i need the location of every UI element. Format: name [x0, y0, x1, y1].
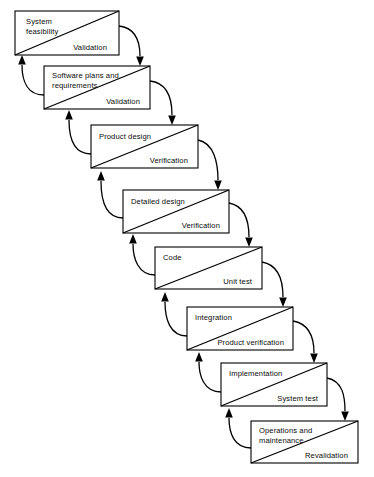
feedback-connector-7-to-6: [195, 352, 221, 392]
stage-verification-label: Product verification: [217, 338, 284, 347]
arrowhead-up-icon: [225, 408, 233, 418]
arrowhead-up-icon: [65, 110, 73, 120]
forward-connector-7-to-8: [327, 378, 349, 421]
forward-connector-3-to-4: [198, 140, 222, 190]
stage-box-6[interactable]: Integration Product verification: [187, 307, 293, 350]
forward-connector-5-to-6: [262, 262, 287, 307]
stage-phase-label-line2: maintenance: [259, 436, 304, 445]
arrowhead-down-icon: [341, 412, 349, 422]
stage-phase-label-line2: feasibility: [26, 27, 58, 36]
arrowhead-down-icon: [245, 238, 253, 248]
feedback-connector-6-to-5: [161, 292, 187, 336]
arrowhead-down-icon: [310, 354, 318, 364]
stage-verification-label: Unit test: [223, 277, 253, 286]
forward-connector-2-to-3: [150, 81, 176, 125]
forward-connector-6-to-7: [293, 321, 318, 363]
stage-box-4[interactable]: Detailed design Verification: [123, 190, 229, 233]
stage-phase-label: Detailed design: [131, 197, 185, 206]
arrowhead-down-icon: [168, 116, 176, 126]
feedback-connector-4-to-3: [97, 171, 123, 218]
feedback-connector-5-to-4: [129, 234, 155, 275]
stage-box-5[interactable]: Code Unit test: [155, 247, 262, 289]
stage-phase-label: Operations and: [259, 426, 312, 435]
stage-box-2[interactable]: Software plans and requirements Validati…: [44, 66, 150, 109]
stage-verification-label: Revalidation: [305, 451, 348, 460]
waterfall-diagram: System feasibility Validation Software p…: [0, 0, 374, 477]
stage-phase-label: Software plans and: [52, 71, 119, 80]
stage-phase-label: Product design: [99, 132, 151, 141]
stage-verification-label: Validation: [73, 43, 107, 52]
arrowhead-up-icon: [97, 171, 105, 181]
stage-box-1[interactable]: System feasibility Validation: [15, 11, 119, 55]
waterfall-diagram-canvas: System feasibility Validation Software p…: [0, 0, 374, 477]
arrowhead-down-icon: [214, 181, 222, 191]
stage-box-7[interactable]: Implementation System test: [221, 363, 327, 406]
arrowhead-down-icon: [279, 298, 287, 308]
stage-box-3[interactable]: Product design Verification: [91, 125, 198, 168]
arrowhead-down-icon: [136, 57, 144, 67]
stage-phase-label: Implementation: [229, 369, 282, 378]
forward-connector-1-to-2: [119, 26, 144, 66]
stage-verification-label: Verification: [150, 156, 188, 165]
stage-phase-label: Code: [163, 253, 182, 262]
stage-verification-label: System test: [277, 394, 319, 403]
feedback-connector-3-to-2: [65, 110, 91, 154]
stage-verification-label: Validation: [106, 97, 140, 106]
feedback-connector-2-to-1: [18, 55, 44, 95]
feedback-connector-8-to-7: [225, 408, 251, 448]
stage-verification-label: Verification: [182, 221, 220, 230]
arrowhead-up-icon: [161, 292, 169, 302]
stage-phase-label: System: [26, 17, 52, 26]
stage-box-8[interactable]: Operations and maintenance Revalidation: [251, 421, 358, 463]
stage-phase-label-line2: requirements: [52, 81, 98, 90]
arrowhead-up-icon: [195, 352, 203, 362]
forward-connector-4-to-5: [229, 203, 253, 247]
stage-phase-label: Integration: [195, 313, 232, 322]
arrowhead-up-icon: [129, 234, 137, 244]
arrowhead-up-icon: [18, 55, 26, 65]
